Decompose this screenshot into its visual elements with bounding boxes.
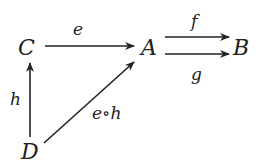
label-e: e bbox=[73, 19, 83, 39]
object-A: A bbox=[139, 35, 157, 60]
label-g: g bbox=[191, 64, 202, 84]
object-B: B bbox=[232, 35, 249, 60]
object-C: C bbox=[18, 35, 35, 60]
label-e-compose-h: e∘h bbox=[92, 103, 121, 123]
object-D: D bbox=[20, 139, 39, 164]
label-h: h bbox=[10, 89, 21, 109]
commutative-diagram: C A B D e f g h e∘h bbox=[0, 0, 268, 165]
label-f: f bbox=[189, 11, 200, 31]
